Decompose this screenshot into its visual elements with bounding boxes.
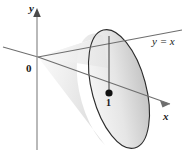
y-axis: [33, 8, 41, 150]
z-axis: [3, 47, 38, 57]
origin-label: 0: [26, 62, 32, 74]
point-one-label: 1: [106, 97, 111, 108]
x-axis-label: x: [162, 110, 169, 122]
y-axis-label: y: [27, 2, 34, 14]
marked-point-dot: [105, 89, 112, 96]
y-axis-arrowhead: [33, 8, 41, 17]
cone-diagram-figure: y x 0 1 y = x: [0, 0, 190, 160]
line-equation-label: y = x: [151, 35, 175, 47]
cone-diagram-svg: y x 0 1 y = x: [0, 0, 190, 160]
x-axis-arrowhead: [160, 101, 170, 108]
